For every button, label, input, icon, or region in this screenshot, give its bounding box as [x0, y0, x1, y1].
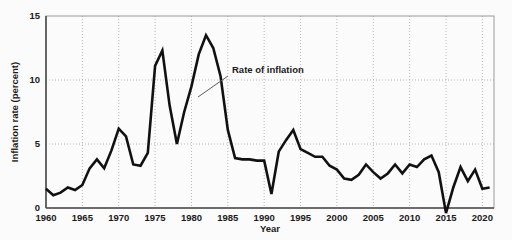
x-tick-label: 2020	[472, 212, 493, 223]
y-tick-label: 5	[35, 138, 41, 149]
chart-background	[0, 0, 512, 240]
inflation-rate-chart: 051015 196019651970197519801985199019952…	[0, 0, 512, 240]
x-tick-label: 2000	[326, 212, 347, 223]
x-tick-label: 1965	[72, 212, 94, 223]
chart-svg: 051015 196019651970197519801985199019952…	[0, 0, 512, 240]
x-tick-label: 2005	[363, 212, 385, 223]
x-tick-label: 1970	[108, 212, 129, 223]
y-tick-label: 15	[29, 10, 40, 21]
x-axis-title: Year	[260, 223, 280, 234]
x-tick-label: 1995	[290, 212, 312, 223]
annotation-label: Rate of inflation	[232, 64, 304, 75]
x-tick-label: 2015	[435, 212, 457, 223]
x-tick-label: 1960	[35, 212, 56, 223]
x-tick-label: 1985	[217, 212, 239, 223]
x-tick-label: 1975	[145, 212, 167, 223]
y-tick-label: 10	[29, 74, 40, 85]
x-tick-label: 1980	[181, 212, 202, 223]
x-tick-label: 1990	[254, 212, 275, 223]
x-tick-label: 2010	[399, 212, 420, 223]
y-axis-title: Inflation rate (percent)	[9, 62, 20, 162]
